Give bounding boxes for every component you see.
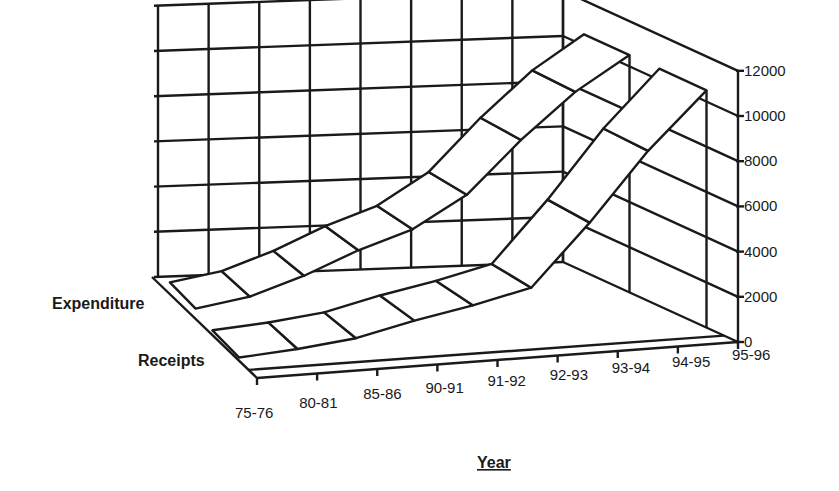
x-tick-label: 90-91 [425,379,463,396]
x-tick-label: 94-95 [672,353,710,370]
x-tick-label: 85-86 [363,385,401,402]
ribbon-receipts [212,69,706,358]
series-label-receipts: Receipts [138,352,205,369]
side-wall-hgrid [563,217,738,297]
x-tick-label: 91-92 [488,372,526,389]
back-wall-hgrid [154,172,563,187]
back-wall-hgrid [154,81,563,96]
back-wall-hgrid [154,36,563,51]
y-tick-label: 2000 [744,288,777,305]
back-wall-hgrid [154,0,563,6]
y-tick-label: 10000 [744,107,786,124]
x-tick-label: 75-76 [235,404,273,421]
x-tick-label: 95-96 [732,346,770,363]
y-tick-label: 8000 [744,152,777,169]
ribbon-chart: 02000400060008000100001200075-7680-8185-… [0,0,839,491]
x-axis-title: Year [477,454,511,471]
x-tick-label: 93-94 [612,359,650,376]
side-wall-hgrid [563,262,738,342]
chart-ribbons [170,34,707,357]
y-tick-label: 4000 [744,243,777,260]
x-tick-label: 80-81 [299,394,337,411]
x-tick-label: 92-93 [550,366,588,383]
y-tick-label: 12000 [744,62,786,79]
y-tick-label: 6000 [744,197,777,214]
series-label-expenditure: Expenditure [52,295,145,312]
